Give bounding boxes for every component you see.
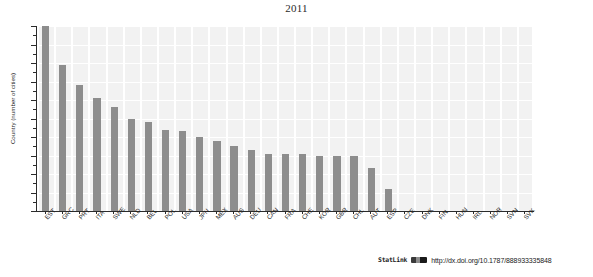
statlink-label: StatLink <box>378 256 407 264</box>
bar-usa[interactable] <box>179 131 186 211</box>
bar-aut[interactable] <box>368 168 375 211</box>
bar-che[interactable] <box>299 154 306 211</box>
statlink-url[interactable]: http://dx.doi.org/10.1787/888933335848 <box>431 257 551 264</box>
bars-container <box>37 26 534 211</box>
bar-esp[interactable] <box>385 189 392 211</box>
bar-fra[interactable] <box>282 154 289 211</box>
bar-prt[interactable] <box>76 85 83 211</box>
y-axis-label: Country (number of cities) <box>9 49 16 169</box>
bar-aus[interactable] <box>230 146 237 211</box>
bar-can[interactable] <box>265 154 272 211</box>
bar-est[interactable] <box>42 26 49 211</box>
statlink-footer: StatLink http://dx.doi.org/10.1787/88893… <box>378 256 552 264</box>
bar-mex[interactable] <box>213 141 220 211</box>
bar-ita[interactable] <box>93 98 100 211</box>
bar-jpn[interactable] <box>196 137 203 211</box>
bar-grc[interactable] <box>59 65 66 211</box>
plot-area <box>36 26 534 212</box>
bar-gbr[interactable] <box>333 156 340 212</box>
chart-figure: 2011 Country (number of cities) 01020304… <box>0 0 593 277</box>
chart-title: 2011 <box>0 2 593 14</box>
bar-pol[interactable] <box>162 130 169 211</box>
y-axis: Country (number of cities) 0102030405060… <box>0 0 36 277</box>
bar-swe[interactable] <box>111 107 118 211</box>
bar-bel[interactable] <box>145 122 152 211</box>
bar-deu[interactable] <box>248 150 255 211</box>
bar-kor[interactable] <box>316 156 323 212</box>
barcode-icon <box>411 257 427 263</box>
bar-nld[interactable] <box>128 119 135 212</box>
bar-chl[interactable] <box>350 156 357 212</box>
